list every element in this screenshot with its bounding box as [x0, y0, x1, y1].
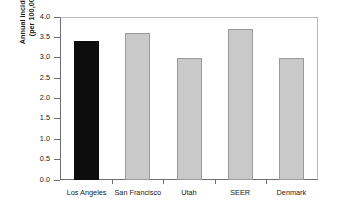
bar-slot	[177, 17, 202, 180]
y-axis-tick-mark	[54, 57, 60, 58]
y-axis-tick-mark	[54, 159, 60, 160]
y-axis-tick-label: 2.5	[24, 73, 50, 83]
y-axis-tick-label: 3.0	[24, 52, 50, 62]
y-axis-tick-label: 2.0	[24, 93, 50, 103]
y-axis-tick-label: 1.0	[24, 134, 50, 144]
x-axis-category-label: San Francisco	[112, 187, 163, 198]
y-axis-tick-mark	[54, 118, 60, 119]
y-axis-tick-label: 3.5	[24, 32, 50, 42]
x-axis-tick-mark	[163, 180, 164, 184]
bar	[74, 41, 99, 180]
x-axis-category-label: Denmark	[266, 187, 317, 198]
y-axis-tick-mark	[54, 98, 60, 99]
bar	[125, 33, 150, 180]
x-axis-category-label: Los Angeles	[61, 187, 112, 198]
y-axis-tick-label: 0.0	[24, 175, 50, 185]
y-axis-tick-label: 0.5	[24, 154, 50, 164]
y-axis-tick-mark	[54, 17, 60, 18]
y-axis-tick-mark	[54, 37, 60, 38]
y-axis-tick-mark	[54, 78, 60, 79]
y-axis-tick-mark	[54, 139, 60, 140]
x-axis-category-label: SEER	[215, 187, 266, 198]
y-axis-tick-mark	[54, 180, 60, 181]
bar-series	[61, 17, 317, 180]
bar-slot	[279, 17, 304, 180]
bar	[279, 58, 304, 180]
y-axis-tick-label: 4.0	[24, 12, 50, 22]
bar	[228, 29, 253, 180]
bar-slot	[74, 17, 99, 180]
bar-slot	[228, 17, 253, 180]
x-axis-tick-mark	[266, 180, 267, 184]
y-axis-tick-label: 1.5	[24, 113, 50, 123]
x-axis-category-label: Utah	[163, 187, 214, 198]
x-axis-tick-mark	[215, 180, 216, 184]
x-axis-tick-mark	[112, 180, 113, 184]
bar-slot	[125, 17, 150, 180]
bar-chart: Annual incidence (per 100,000) 4.03.53.0…	[0, 0, 344, 220]
bar	[177, 58, 202, 180]
